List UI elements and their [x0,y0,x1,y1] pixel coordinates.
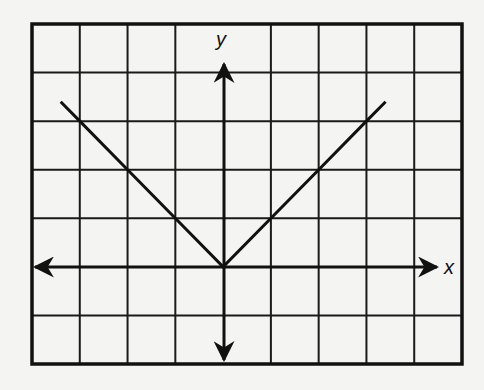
coordinate-graph: x y [0,0,484,390]
y-axis-label: y [214,28,227,50]
x-axis-label: x [443,256,455,278]
graph-frame [32,24,462,364]
grid-lines [32,24,462,364]
